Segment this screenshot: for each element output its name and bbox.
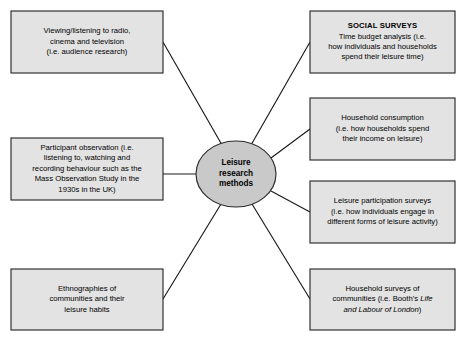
- node-box-household-surveys[interactable]: [310, 269, 455, 330]
- connector-to-household-consumption: [271, 129, 310, 158]
- node-box-social-surveys[interactable]: [310, 11, 455, 73]
- connector-to-leisure-participation: [271, 191, 310, 212]
- node-box-viewing-listening[interactable]: [11, 11, 163, 73]
- connector-to-ethnographies: [163, 204, 221, 299]
- node-box-ethnographies[interactable]: [11, 269, 163, 330]
- node-box-leisure-participation[interactable]: [310, 181, 455, 243]
- connector-to-household-surveys: [252, 204, 310, 299]
- center-node-ellipse[interactable]: [196, 141, 276, 207]
- connector-to-social-surveys: [251, 42, 310, 145]
- connector-to-viewing-listening: [163, 42, 222, 145]
- diagram-canvas: [0, 0, 465, 340]
- leisure-research-methods-diagram: Viewing/listening to radio, cinema and t…: [0, 0, 465, 340]
- node-box-household-consumption[interactable]: [310, 98, 455, 160]
- node-box-participant-observation[interactable]: [11, 138, 163, 200]
